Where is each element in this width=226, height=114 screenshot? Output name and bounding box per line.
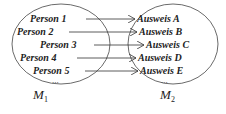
set-m1-subscript: 1 <box>44 95 48 104</box>
set-mapping-diagram: Person 1 Person 2 Person 3 Person 4 Pers… <box>0 0 226 114</box>
left-element-2: Person 2 <box>17 26 53 37</box>
set-m2-subscript: 2 <box>171 95 175 104</box>
left-element-1: Person 1 <box>30 13 66 24</box>
right-element-a: Ausweis A <box>136 13 180 24</box>
right-ellipsis: ... <box>161 75 168 85</box>
left-element-4: Person 4 <box>20 52 56 63</box>
right-element-d: Ausweis D <box>137 52 182 63</box>
left-ellipsis: ... <box>52 75 59 85</box>
right-element-b: Ausweis B <box>138 26 182 37</box>
right-element-c: Ausweis C <box>145 39 189 50</box>
left-element-3: Person 3 <box>40 39 76 50</box>
diagram-canvas: Person 1 Person 2 Person 3 Person 4 Pers… <box>0 0 226 114</box>
